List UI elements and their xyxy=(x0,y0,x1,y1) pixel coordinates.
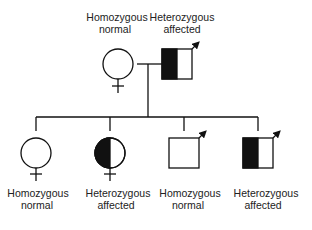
svg-text:Homozygous: Homozygous xyxy=(86,11,147,23)
father-male-symbol xyxy=(162,43,198,79)
svg-text:Homozygous: Homozygous xyxy=(7,187,68,199)
child-4-label: Heterozygous affected xyxy=(234,187,299,211)
child-1-label: Homozygous normal xyxy=(7,187,68,211)
proband-arrow-icon xyxy=(199,132,205,138)
proband-arrow-icon xyxy=(273,132,279,138)
child-4-male-symbol xyxy=(243,132,279,168)
svg-text:affected: affected xyxy=(244,199,281,211)
mother-female-symbol xyxy=(103,49,133,93)
child-1-female-symbol xyxy=(21,138,51,181)
svg-text:normal: normal xyxy=(99,23,131,35)
svg-text:Heterozygous: Heterozygous xyxy=(150,11,215,23)
pedigree-diagram: Homozygous normal Heterozygous affected xyxy=(0,0,312,230)
svg-text:Heterozygous: Heterozygous xyxy=(234,187,299,199)
child-3-male-symbol xyxy=(169,132,205,168)
svg-text:affected: affected xyxy=(163,23,200,35)
svg-text:affected: affected xyxy=(97,199,134,211)
svg-text:Homozygous: Homozygous xyxy=(159,187,220,199)
proband-arrow-icon xyxy=(192,43,198,49)
svg-text:normal: normal xyxy=(21,199,53,211)
svg-text:Heterozygous: Heterozygous xyxy=(86,187,151,199)
mother-label: Homozygous normal xyxy=(86,11,147,35)
child-2-label: Heterozygous affected xyxy=(86,187,151,211)
svg-text:normal: normal xyxy=(172,199,204,211)
child-2-female-symbol xyxy=(95,138,125,181)
pedigree-lines xyxy=(36,64,258,131)
child-3-label: Homozygous normal xyxy=(159,187,220,211)
father-label: Heterozygous affected xyxy=(150,11,215,35)
